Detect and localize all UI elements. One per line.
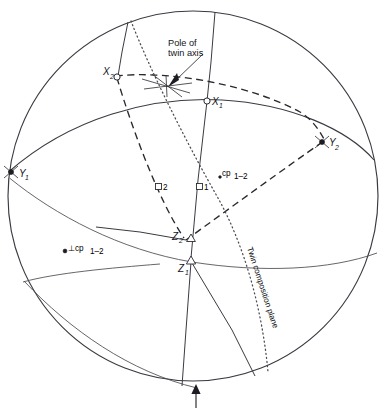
axis-label-z2: Z 2 xyxy=(171,231,183,244)
pole-of-twin-axis-label-line2: twin axis xyxy=(168,48,204,58)
axis-label-z2-letter: Z xyxy=(171,231,179,242)
axis-label-x2-letter: X xyxy=(102,66,110,77)
dashed-meridian-x2-z2 xyxy=(117,78,184,238)
axis-label-y2-sub: 2 xyxy=(334,144,339,151)
great-circle-lower-left-connector xyxy=(23,264,160,282)
axis-label-x1: X 1 xyxy=(211,96,223,109)
twin-composition-plane-trace xyxy=(131,21,268,372)
great-circle-horizon-solid xyxy=(10,178,378,268)
axis-label-z1-letter: Z xyxy=(177,263,185,274)
point-marker-box-2[interactable] xyxy=(156,184,162,190)
point-marker-x1[interactable] xyxy=(204,98,210,104)
stereographic-projection-figure: Pole of twin axis X 1 X 2 Y 1 Y 2 Z 1 Z xyxy=(0,0,387,413)
axis-label-y2: Y 2 xyxy=(329,137,339,151)
great-circle-lower-left-arc xyxy=(24,281,197,388)
point-marker-perp-cp[interactable] xyxy=(63,249,67,253)
pole-of-twin-axis-leader xyxy=(168,54,203,87)
radial-z1-lower-right xyxy=(192,263,255,376)
cp-label: cp 1–2 xyxy=(222,169,248,181)
point-marker-y2[interactable] xyxy=(315,136,329,148)
cp-label-text: cp xyxy=(222,169,231,178)
view-direction-arrow xyxy=(191,384,200,408)
axis-label-y1: Y 1 xyxy=(19,168,29,181)
point-marker-cp xyxy=(219,176,222,179)
axis-label-x1-sub: 1 xyxy=(219,102,223,109)
axis-label-z1: Z 1 xyxy=(177,263,189,276)
meridian-z1-to-bottom xyxy=(182,262,191,386)
axis-label-z1-sub: 1 xyxy=(185,269,189,276)
point-marker-z1[interactable] xyxy=(186,256,195,264)
twin-composition-plane-label: Twin composition plane xyxy=(245,246,280,330)
point-marker-x2[interactable] xyxy=(114,74,120,80)
pole-of-twin-axis-label-line1: Pole of xyxy=(168,38,197,48)
primitive-circle xyxy=(8,11,378,381)
perp-cp-label: ⊥cp 1–2 xyxy=(68,244,104,256)
stereonet-canvas: Pole of twin axis X 1 X 2 Y 1 Y 2 Z 1 Z xyxy=(0,0,387,413)
axis-label-y1-sub: 1 xyxy=(25,174,29,181)
box-label-2: 2 xyxy=(163,183,168,192)
pole-of-twin-axis-marker xyxy=(142,74,192,97)
great-circle-upper-solid xyxy=(9,100,375,172)
point-marker-box-1[interactable] xyxy=(197,184,203,190)
axis-label-z2-sub: 2 xyxy=(178,237,183,244)
box-label-1: 1 xyxy=(204,183,209,192)
perp-cp-label-subscript: 1–2 xyxy=(90,247,104,256)
meridian-x2-upper xyxy=(118,22,128,76)
cp-label-subscript: 1–2 xyxy=(234,172,248,181)
perp-cp-label-text: ⊥cp xyxy=(68,244,84,253)
point-marker-z2[interactable] xyxy=(187,234,196,242)
axis-label-x2-sub: 2 xyxy=(109,73,114,80)
axis-label-x2: X 2 xyxy=(102,66,114,80)
axis-label-x1-letter: X xyxy=(211,96,219,107)
point-marker-y1[interactable] xyxy=(4,166,18,178)
